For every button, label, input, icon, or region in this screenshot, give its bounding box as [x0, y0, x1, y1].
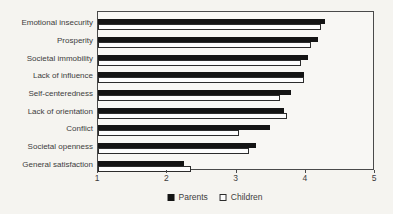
category-label: Societal immobility [0, 54, 96, 64]
category-label: Self-centeredness [0, 89, 96, 99]
x-tick-label: 1 [95, 173, 100, 183]
category-label: Prosperity [0, 36, 96, 46]
bar-chart-figure: Emotional insecurityProsperitySocietal i… [0, 0, 393, 214]
category-label: Lack of orientation [0, 107, 96, 117]
category-label: General satisfaction [0, 160, 96, 170]
category-label: Conflict [0, 124, 96, 134]
category-label: Societal openness [0, 142, 96, 152]
category-label: Emotional insecurity [0, 18, 96, 28]
bar-children [98, 77, 304, 83]
bar-children [98, 130, 239, 136]
plot-area [97, 11, 374, 170]
x-tick-label: 2 [164, 173, 169, 183]
bar-children [98, 148, 249, 154]
category-label: Lack of influence [0, 71, 96, 81]
x-tick-label: 3 [233, 173, 238, 183]
children-swatch-icon [220, 194, 227, 201]
x-tick-label: 5 [372, 173, 377, 183]
legend-item-children: Children [220, 192, 263, 202]
legend-label-parents: Parents [179, 192, 208, 202]
bar-children [98, 95, 280, 101]
legend-item-parents: Parents [168, 192, 208, 202]
x-tick-label: 4 [302, 173, 307, 183]
parents-swatch-icon [168, 194, 175, 201]
bar-children [98, 60, 301, 66]
bar-children [98, 42, 311, 48]
bar-children [98, 24, 321, 30]
legend-label-children: Children [231, 192, 263, 202]
bar-children [98, 166, 191, 172]
chart-legend: Parents Children [168, 192, 263, 202]
bar-children [98, 113, 287, 119]
